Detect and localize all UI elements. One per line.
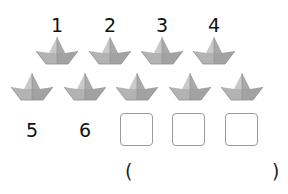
number-label: 4: [202, 15, 226, 35]
paper-boat-icon: [64, 73, 106, 101]
open-parenthesis: (: [125, 160, 132, 182]
paper-boat-icon: [116, 73, 158, 101]
number-label: 6: [73, 120, 97, 140]
answer-box-8[interactable]: [172, 113, 205, 146]
answer-box-9[interactable]: [225, 113, 258, 146]
number-label: 5: [20, 120, 44, 140]
paper-boat-icon: [36, 37, 78, 65]
paper-boat-icon: [141, 37, 183, 65]
number-label: 3: [150, 15, 174, 35]
answer-box-7[interactable]: [120, 113, 153, 146]
paper-boat-icon: [11, 73, 53, 101]
paper-boat-icon: [89, 37, 131, 65]
number-label: 2: [98, 15, 122, 35]
paper-boat-icon: [193, 37, 235, 65]
paper-boat-icon: [221, 73, 263, 101]
number-label: 1: [45, 15, 69, 35]
paper-boat-icon: [169, 73, 211, 101]
close-parenthesis: ): [272, 160, 279, 182]
